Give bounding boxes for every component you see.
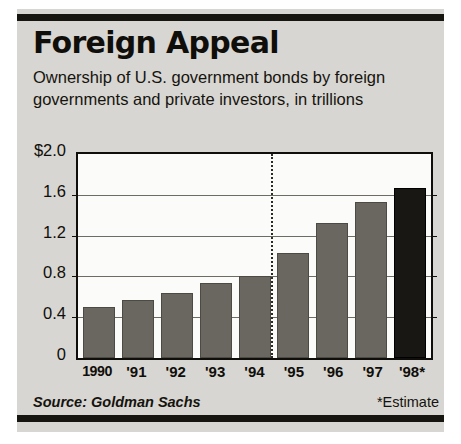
y-axis-label-1.6: 1.6: [43, 182, 66, 201]
bar-94: [239, 276, 271, 358]
chart-subtitle: Ownership of U.S. government bonds by fo…: [33, 67, 425, 111]
bar-93: [200, 283, 232, 358]
bar-1990: [83, 307, 115, 358]
estimate-footnote: *Estimate: [377, 394, 439, 410]
source-note: Source: Goldman Sachs: [33, 394, 201, 410]
bar-97: [355, 202, 387, 358]
y-tick-right-0.4: [431, 317, 437, 318]
x-axis-label-91: '91: [120, 363, 152, 387]
bar-98: [394, 188, 426, 358]
x-axis-label-98: '98*: [396, 363, 428, 387]
y-tick-right-1.6: [431, 195, 437, 196]
x-axis-labels: 1990'91'92'93'94'95'96'97'98*: [76, 363, 433, 387]
x-axis-label-92: '92: [160, 363, 192, 387]
bar-95: [277, 253, 309, 358]
x-axis-label-97: '97: [357, 363, 389, 387]
bottom-rule: [17, 415, 444, 422]
bar-92: [161, 293, 193, 358]
y-tick-right-0.8: [431, 276, 437, 277]
x-axis-label-94: '94: [239, 363, 271, 387]
bar-91: [122, 300, 154, 358]
x-axis-label-93: '93: [199, 363, 231, 387]
bar-series: [78, 154, 431, 358]
x-axis-label-1990: 1990: [81, 363, 113, 387]
x-axis-label-96: '96: [317, 363, 349, 387]
chart-title: Foreign Appeal: [33, 25, 279, 60]
y-axis-label-2.0: $2.0: [34, 141, 66, 160]
top-rule: [17, 14, 444, 21]
y-axis-label-1.2: 1.2: [43, 223, 66, 242]
y-axis-label-0.8: 0.8: [43, 263, 66, 282]
y-axis-label-0.4: 0.4: [43, 304, 66, 323]
y-axis-label-0: 0: [57, 345, 66, 364]
y-tick-right-1.2: [431, 236, 437, 237]
bar-96: [316, 223, 348, 358]
x-axis-label-95: '95: [278, 363, 310, 387]
plot-area: [76, 152, 433, 360]
y-axis-labels: 00.40.81.21.6$2.0: [0, 140, 70, 372]
